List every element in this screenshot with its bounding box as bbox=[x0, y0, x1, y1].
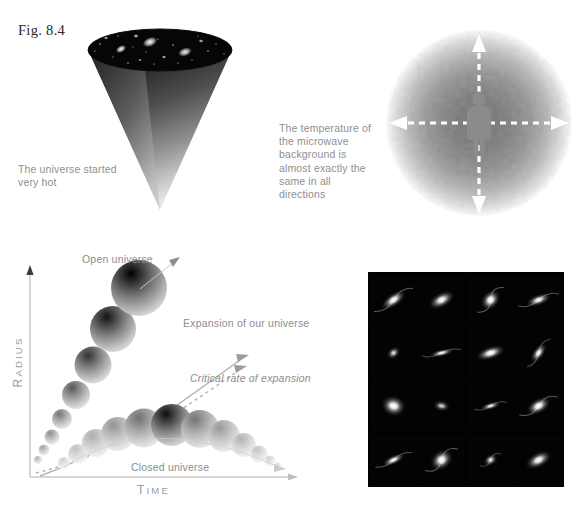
star-point bbox=[207, 50, 208, 51]
galaxy-image bbox=[467, 434, 514, 486]
galaxy-image bbox=[515, 274, 562, 326]
star-point bbox=[145, 51, 146, 52]
galaxy-image bbox=[370, 434, 417, 486]
galaxy-image bbox=[370, 327, 417, 379]
galaxy-image bbox=[515, 380, 562, 432]
galaxy-image bbox=[418, 274, 465, 326]
galaxy-cell bbox=[515, 380, 562, 432]
label-open-universe: Open universe bbox=[82, 253, 153, 265]
figure-label: Fig. 8.4 bbox=[18, 22, 65, 39]
galaxy-cell bbox=[515, 434, 562, 486]
galaxy-image bbox=[467, 327, 514, 379]
star-point bbox=[127, 62, 128, 63]
axis-label-time: TIME bbox=[137, 483, 170, 497]
closed-universe-spheres bbox=[58, 404, 282, 470]
expanding-universe-cone bbox=[85, 28, 245, 233]
star-point bbox=[112, 56, 113, 57]
caption-microwave-background: The temperature of the microwave backgro… bbox=[279, 122, 379, 201]
label-critical-rate-of-expansion: Critical rate of expansion bbox=[190, 372, 311, 384]
galaxy-cell bbox=[467, 274, 514, 326]
star-point bbox=[215, 43, 216, 44]
galaxy-cell bbox=[467, 434, 514, 486]
galaxy-cell bbox=[467, 380, 514, 432]
label-closed-universe: Closed universe bbox=[131, 461, 209, 473]
galaxy-cell bbox=[418, 380, 465, 432]
galaxy-image bbox=[467, 274, 514, 326]
galaxy-image bbox=[370, 274, 417, 326]
cone-svg bbox=[85, 28, 245, 233]
star-point bbox=[191, 59, 192, 60]
star-point bbox=[223, 53, 224, 54]
microwave-background-sphere bbox=[383, 26, 575, 224]
galaxy-cell bbox=[467, 327, 514, 379]
galaxy-cell bbox=[370, 274, 417, 326]
label-expansion-of-our-universe: Expansion of our universe bbox=[183, 317, 309, 329]
galaxy-image bbox=[370, 380, 417, 432]
galaxy-spot bbox=[138, 59, 142, 62]
figure-page: Fig. 8.4 bbox=[0, 0, 575, 512]
cmb-svg bbox=[383, 26, 575, 224]
galaxy-cell bbox=[370, 380, 417, 432]
open-universe-sphere bbox=[34, 456, 42, 464]
galaxy-cell bbox=[418, 327, 465, 379]
open-universe-sphere bbox=[111, 260, 167, 316]
star-point bbox=[172, 44, 173, 45]
closed-universe-sphere bbox=[58, 457, 70, 469]
galaxy-image bbox=[418, 380, 465, 432]
expansion-arrow bbox=[236, 354, 249, 362]
open-universe-sphere bbox=[45, 430, 60, 445]
galaxy-image bbox=[467, 380, 514, 432]
galaxy-image bbox=[515, 434, 562, 486]
galaxy-image bbox=[418, 327, 465, 379]
open-universe-sphere bbox=[52, 409, 72, 429]
galaxy-spot bbox=[133, 34, 138, 38]
open-universe-arrow bbox=[169, 257, 180, 267]
galaxy-image bbox=[418, 434, 465, 486]
galaxy-photo-grid bbox=[368, 272, 564, 487]
galaxy-cell bbox=[370, 434, 417, 486]
star-point bbox=[133, 47, 134, 48]
galaxy-spot bbox=[199, 39, 204, 43]
galaxy-cell bbox=[418, 274, 465, 326]
axis-label-radius: RADIUS bbox=[11, 337, 25, 388]
star-point bbox=[94, 50, 95, 51]
star-point bbox=[99, 43, 100, 44]
galaxy-spot bbox=[162, 55, 166, 58]
galaxy-cell bbox=[515, 274, 562, 326]
galaxy-cell bbox=[418, 434, 465, 486]
open-universe-sphere bbox=[62, 381, 90, 409]
star-point bbox=[177, 62, 178, 63]
star-point bbox=[153, 63, 154, 64]
galaxy-image bbox=[515, 327, 562, 379]
open-universe-sphere bbox=[39, 445, 50, 456]
star-point bbox=[117, 35, 118, 36]
open-universe-sphere bbox=[75, 347, 112, 384]
galaxy-cell bbox=[515, 327, 562, 379]
caption-universe-hot: The universe started very hot bbox=[18, 163, 122, 189]
galaxy-cell bbox=[370, 327, 417, 379]
star-point bbox=[157, 38, 158, 39]
star-point bbox=[198, 36, 199, 37]
